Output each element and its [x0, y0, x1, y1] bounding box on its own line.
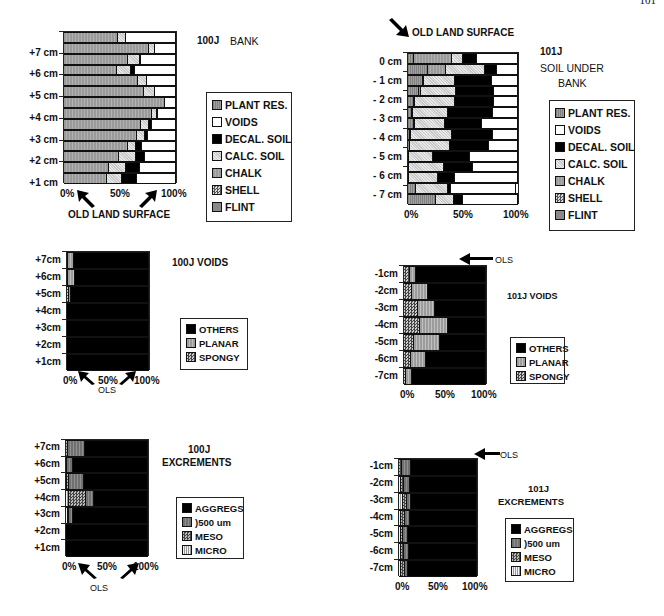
legend-item: VOIDS — [555, 121, 629, 138]
legend-label: MICRO — [524, 566, 556, 577]
bar-segment — [74, 253, 149, 268]
bar-segment — [410, 477, 477, 492]
bar-segment — [455, 173, 518, 182]
legend-label: VOIDS — [568, 124, 601, 136]
legend-swatch-icon — [555, 125, 565, 135]
legend-label: AGGREGS — [524, 524, 573, 535]
y-tick — [59, 118, 63, 119]
bar-row — [67, 269, 149, 286]
y-tick — [403, 166, 407, 167]
chart-legend: PLANT RES.VOIDSDECAL. SOILCALC. SOILCHAL… — [549, 100, 635, 231]
bar-segment — [158, 109, 176, 118]
bar-segment — [411, 352, 427, 367]
legend-swatch-icon — [516, 343, 526, 353]
bar-segment — [409, 152, 433, 161]
arrow-up-left-icon-voids — [77, 370, 97, 386]
bar-row — [399, 510, 477, 527]
bar-segment — [64, 131, 137, 140]
bar-segment — [142, 142, 176, 151]
legend-label: FLINT — [225, 201, 255, 213]
bar-segment — [85, 441, 148, 456]
bar-row — [408, 64, 518, 75]
bar-row — [67, 320, 149, 337]
bar-segment — [455, 76, 491, 85]
bar-row — [408, 107, 518, 118]
bar-segment — [408, 561, 477, 576]
bar-segment — [118, 33, 126, 42]
bar-segment — [416, 267, 486, 282]
bar-segment — [122, 174, 137, 183]
y-tick — [61, 456, 65, 457]
y-tick-label: - 1 cm — [373, 75, 402, 86]
legend-label: SHELL — [225, 184, 259, 196]
y-tick — [394, 542, 398, 543]
bar-segment — [414, 54, 453, 63]
legend-swatch-icon — [212, 134, 222, 144]
legend-swatch-icon — [555, 176, 565, 186]
ols-label-101j-voids: OLS — [495, 255, 513, 265]
bar-segment — [67, 321, 149, 336]
bar-row — [66, 473, 148, 490]
bar-row — [64, 43, 176, 54]
bar-segment — [412, 284, 428, 299]
bar-segment — [452, 54, 463, 63]
x-tick-label: 100% — [471, 389, 497, 400]
bar-segment — [493, 108, 518, 117]
chart-legend: OTHERSPLANARSPONGY — [180, 318, 248, 370]
bar-segment — [128, 55, 140, 64]
legend-item: CHALK — [555, 172, 629, 189]
legend-label: PLANT RES. — [225, 99, 287, 111]
legend-swatch-icon — [182, 545, 192, 555]
legend-label: DECAL. SOIL — [225, 133, 292, 145]
bar-segment — [155, 87, 176, 96]
arrow-left-icon-exc101 — [473, 447, 501, 461]
legend-label: CHALK — [568, 175, 605, 187]
chart-legend: AGGREGS)500 umMESOMICRO — [176, 497, 244, 559]
bar-segment — [165, 98, 176, 107]
bar-segment — [84, 474, 148, 489]
bar-segment — [455, 97, 494, 106]
y-tick-label: +1cm — [34, 542, 60, 553]
chart-title-101j-voids: 101J VOIDS — [507, 291, 558, 301]
bar-segment — [494, 87, 518, 96]
y-tick — [61, 439, 65, 440]
bar-segment — [445, 119, 481, 128]
bar-segment — [64, 66, 117, 75]
legend-swatch-icon — [555, 210, 565, 220]
bar-row — [64, 32, 176, 43]
chart-title-100j-exc-a: 100J — [188, 444, 210, 455]
y-tick-label: +6 cm — [29, 68, 58, 79]
plot-area — [63, 31, 177, 183]
plot-area — [398, 458, 478, 576]
y-tick-label: +4cm — [34, 492, 60, 503]
bar-row — [64, 54, 176, 65]
bar-row — [404, 266, 486, 283]
bar-segment — [119, 152, 136, 161]
bar-row — [404, 334, 486, 351]
bar-segment — [140, 163, 176, 172]
legend-swatch-icon — [516, 357, 526, 367]
bar-segment — [66, 525, 148, 540]
y-tick-label: +6cm — [34, 458, 60, 469]
bar-segment — [73, 458, 148, 473]
legend-item: OTHERS — [186, 322, 242, 336]
bar-row — [408, 96, 518, 107]
bar-segment — [64, 174, 107, 183]
bar-row — [64, 119, 176, 130]
bar-segment — [155, 44, 176, 53]
x-tick-label: 50% — [435, 389, 455, 400]
bar-segment — [137, 131, 145, 140]
bar-row — [408, 162, 518, 173]
legend-label: )500 um — [195, 517, 231, 528]
bar-row — [64, 75, 176, 86]
y-tick — [399, 265, 403, 266]
bar-segment — [408, 184, 416, 193]
y-tick — [403, 52, 407, 53]
bar-segment — [411, 494, 477, 509]
bar-segment — [451, 184, 516, 193]
bar-segment — [68, 441, 85, 456]
bar-segment — [477, 54, 518, 63]
y-tick-label: 0 cm — [379, 56, 402, 67]
chart-title-101j: 101J — [540, 46, 562, 57]
y-tick — [61, 523, 65, 524]
